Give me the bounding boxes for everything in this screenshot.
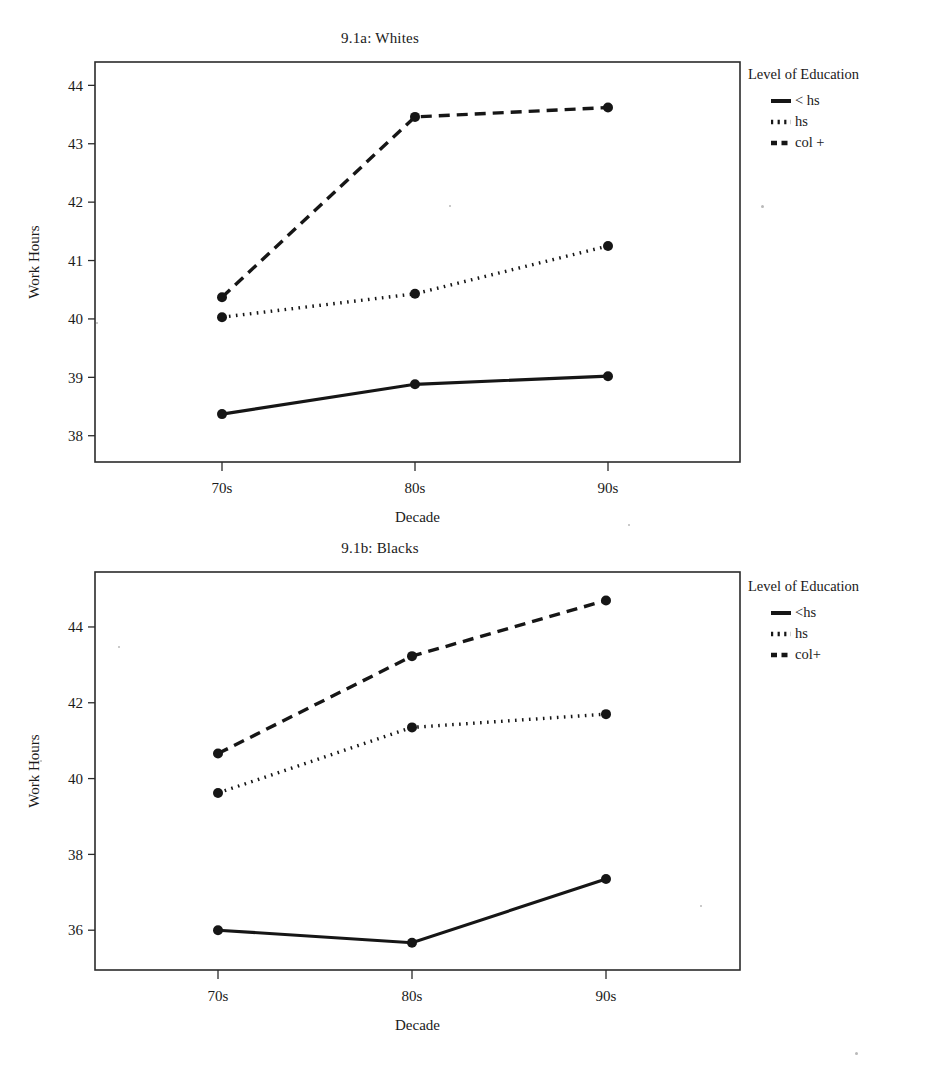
data-point-marker: [407, 722, 417, 732]
data-point-marker: [217, 312, 227, 322]
data-point-marker: [601, 595, 611, 605]
series-line-2: [222, 108, 608, 298]
legend-label: col+: [795, 646, 821, 663]
data-point-marker: [601, 709, 611, 719]
data-point-marker: [407, 938, 417, 948]
data-point-marker: [603, 241, 613, 251]
y-tick-label: 44: [68, 619, 84, 635]
legend-blacks: Level of Education <hshscol+: [748, 578, 859, 665]
scan-artifact: [40, 760, 42, 762]
scan-artifact: [628, 524, 630, 526]
legend-whites: Level of Education < hshscol +: [748, 66, 859, 153]
scan-artifact: [96, 322, 98, 324]
data-point-marker: [603, 371, 613, 381]
data-point-marker: [410, 289, 420, 299]
legend-item-0[interactable]: <hs: [770, 602, 859, 623]
legend-swatch-solid-icon: [770, 607, 792, 618]
legend-item-1[interactable]: hs: [770, 111, 859, 132]
legend-swatch-dashed-icon: [770, 649, 792, 660]
scan-artifact: [761, 205, 764, 208]
line-chart-whites: 3839404142434470s80s90sDecadeWork Hours: [0, 0, 760, 530]
x-axis-title: Decade: [395, 1017, 440, 1033]
legend-swatch-dotted-icon: [770, 116, 792, 127]
data-point-marker: [407, 651, 417, 661]
x-tick-label: 80s: [402, 988, 423, 1004]
data-point-marker: [217, 292, 227, 302]
y-tick-label: 40: [68, 771, 83, 787]
y-tick-label: 43: [68, 136, 83, 152]
data-point-marker: [410, 112, 420, 122]
legend-swatch-dotted-icon: [770, 628, 792, 639]
scan-artifact: [855, 1052, 858, 1055]
legend-swatch-solid-icon: [770, 95, 792, 106]
legend-item-2[interactable]: col+: [770, 644, 859, 665]
data-point-marker: [603, 103, 613, 113]
series-line-1: [222, 246, 608, 317]
scan-artifact: [449, 205, 451, 207]
x-tick-label: 80s: [405, 480, 426, 496]
y-tick-label: 44: [68, 78, 84, 94]
x-axis-title: Decade: [395, 509, 440, 525]
legend-item-0[interactable]: < hs: [770, 90, 859, 111]
data-point-marker: [213, 749, 223, 759]
scan-artifact: [700, 905, 702, 907]
y-tick-label: 38: [68, 428, 83, 444]
legend-label: col +: [795, 134, 825, 151]
data-point-marker: [217, 409, 227, 419]
legend-label: < hs: [795, 92, 820, 109]
legend-swatch-dashed-icon: [770, 137, 792, 148]
legend-title-b: Level of Education: [748, 578, 859, 595]
legend-items-b: <hshscol+: [748, 602, 859, 665]
legend-label: hs: [795, 113, 808, 130]
data-point-marker: [601, 874, 611, 884]
line-chart-blacks: 363840424470s80s90sDecadeWork Hours: [0, 530, 760, 1070]
legend-items-a: < hshscol +: [748, 90, 859, 153]
legend-item-2[interactable]: col +: [770, 132, 859, 153]
y-axis-title: Work Hours: [26, 225, 42, 299]
chart-panel-blacks: 9.1b: Blacks 363840424470s80s90sDecadeWo…: [0, 530, 931, 1070]
x-tick-label: 90s: [598, 480, 619, 496]
data-point-marker: [213, 925, 223, 935]
scan-artifact: [118, 646, 120, 648]
legend-title-a: Level of Education: [748, 66, 859, 83]
y-tick-label: 42: [68, 695, 83, 711]
x-tick-label: 90s: [596, 988, 617, 1004]
legend-label: hs: [795, 625, 808, 642]
y-tick-label: 39: [68, 370, 83, 386]
legend-label: <hs: [795, 604, 816, 621]
x-tick-label: 70s: [212, 480, 233, 496]
y-tick-label: 38: [68, 847, 83, 863]
data-point-marker: [213, 788, 223, 798]
figure-page: 9.1a: Whites 3839404142434470s80s90sDeca…: [0, 0, 931, 1070]
y-tick-label: 41: [68, 253, 83, 269]
data-point-marker: [410, 379, 420, 389]
y-tick-label: 36: [68, 922, 84, 938]
y-tick-label: 42: [68, 194, 83, 210]
x-tick-label: 70s: [208, 988, 229, 1004]
legend-item-1[interactable]: hs: [770, 623, 859, 644]
y-tick-label: 40: [68, 311, 83, 327]
y-axis-title: Work Hours: [26, 734, 42, 808]
series-line-0: [218, 879, 606, 943]
chart-panel-whites: 9.1a: Whites 3839404142434470s80s90sDeca…: [0, 0, 931, 530]
